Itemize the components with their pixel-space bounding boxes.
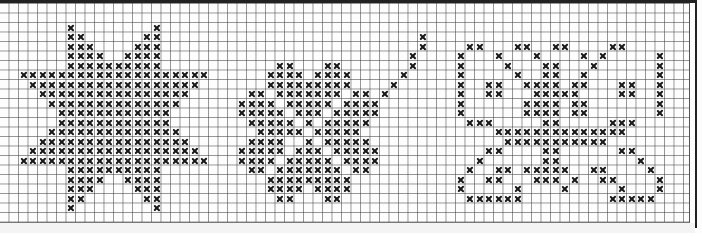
cross-stitch-icon xyxy=(266,127,276,137)
cross-stitch-icon xyxy=(617,42,627,52)
cross-stitch-icon xyxy=(323,165,333,175)
cross-stitch-icon xyxy=(655,70,665,80)
cross-stitch-icon xyxy=(332,137,342,147)
cross-stitch-icon xyxy=(85,184,95,194)
cross-stitch-icon xyxy=(133,80,143,90)
cross-stitch-icon xyxy=(142,108,152,118)
cross-stitch-icon xyxy=(513,42,523,52)
cross-stitch-icon xyxy=(304,175,314,185)
cross-stitch-icon xyxy=(351,99,361,109)
cross-stitch-icon xyxy=(133,146,143,156)
cross-stitch-icon xyxy=(304,108,314,118)
cross-stitch-icon xyxy=(38,146,48,156)
cross-stitch-icon xyxy=(503,61,513,71)
cross-stitch-icon xyxy=(114,127,124,137)
cross-stitch-icon xyxy=(579,108,589,118)
cross-stitch-icon xyxy=(180,80,190,90)
cross-stitch-icon xyxy=(484,146,494,156)
cross-stitch-icon xyxy=(294,108,304,118)
cross-stitch-icon xyxy=(456,89,466,99)
cross-stitch-icon xyxy=(247,118,257,128)
cross-stitch-icon xyxy=(95,165,105,175)
cross-stitch-icon xyxy=(513,127,523,137)
cross-stitch-icon xyxy=(133,184,143,194)
cross-stitch-icon xyxy=(237,108,247,118)
cross-stitch-icon xyxy=(342,118,352,128)
cross-stitch-icon xyxy=(133,137,143,147)
cross-stitch-icon xyxy=(76,146,86,156)
cross-stitch-icon xyxy=(85,61,95,71)
cross-stitch-icon xyxy=(285,127,295,137)
cross-stitch-icon xyxy=(256,89,266,99)
cross-stitch-icon xyxy=(266,99,276,109)
cross-stitch-icon xyxy=(332,80,342,90)
cross-stitch-icon xyxy=(19,70,29,80)
cross-stitch-icon xyxy=(123,146,133,156)
cross-stitch-icon xyxy=(142,89,152,99)
cross-stitch-icon xyxy=(532,175,542,185)
cross-stitch-icon xyxy=(66,127,76,137)
cross-stitch-icon xyxy=(484,118,494,128)
cross-stitch-icon xyxy=(285,156,295,166)
cross-stitch-icon xyxy=(541,108,551,118)
cross-stitch-icon xyxy=(247,146,257,156)
cross-stitch-icon xyxy=(475,156,485,166)
cross-stitch-icon xyxy=(161,80,171,90)
cross-stitch-icon xyxy=(541,61,551,71)
cross-stitch-icon xyxy=(342,127,352,137)
cross-stitch-icon xyxy=(560,127,570,137)
cross-stitch-icon xyxy=(256,108,266,118)
cross-stitch-icon xyxy=(351,118,361,128)
cross-stitch-icon xyxy=(76,70,86,80)
cross-stitch-icon xyxy=(313,184,323,194)
cross-stitch-icon xyxy=(66,203,76,213)
cross-stitch-icon xyxy=(275,80,285,90)
cross-stitch-icon xyxy=(95,99,105,109)
cross-stitch-icon xyxy=(332,118,342,128)
cross-stitch-icon xyxy=(551,80,561,90)
cross-stitch-icon xyxy=(76,51,86,61)
cross-stitch-icon xyxy=(142,184,152,194)
cross-stitch-icon xyxy=(589,127,599,137)
cross-stitch-icon xyxy=(247,156,257,166)
cross-stitch-icon xyxy=(627,89,637,99)
cross-stitch-icon xyxy=(541,118,551,128)
cross-stitch-icon xyxy=(408,61,418,71)
cross-stitch-icon xyxy=(389,80,399,90)
cross-stitch-icon xyxy=(332,89,342,99)
cross-stitch-icon xyxy=(646,165,656,175)
cross-stitch-icon xyxy=(123,165,133,175)
cross-stitch-icon xyxy=(655,99,665,109)
cross-stitch-icon xyxy=(475,194,485,204)
cross-stitch-icon xyxy=(285,194,295,204)
cross-stitch-icon xyxy=(532,127,542,137)
cross-stitch-icon xyxy=(152,42,162,52)
cross-stitch-icon xyxy=(294,127,304,137)
cross-stitch-icon xyxy=(152,194,162,204)
cross-stitch-icon xyxy=(541,89,551,99)
cross-stitch-icon xyxy=(294,70,304,80)
cross-stitch-icon xyxy=(114,137,124,147)
cross-stitch-icon xyxy=(171,70,181,80)
cross-stitch-icon xyxy=(551,89,561,99)
cross-stitch-icon xyxy=(503,127,513,137)
cross-stitch-icon xyxy=(266,108,276,118)
cross-stitch-icon xyxy=(655,80,665,90)
cross-stitch-icon xyxy=(85,175,95,185)
cross-stitch-icon xyxy=(38,80,48,90)
cross-stitch-icon xyxy=(190,156,200,166)
cross-stitch-icon xyxy=(627,80,637,90)
cross-stitch-icon xyxy=(123,156,133,166)
cross-stitch-icon xyxy=(237,146,247,156)
cross-stitch-icon xyxy=(275,108,285,118)
cross-stitch-icon xyxy=(133,127,143,137)
cross-stitch-icon xyxy=(152,203,162,213)
cross-stitch-icon xyxy=(104,80,114,90)
cross-stitch-icon xyxy=(85,80,95,90)
cross-stitch-icon xyxy=(323,80,333,90)
cross-stitch-icon xyxy=(171,89,181,99)
cross-stitch-icon xyxy=(190,70,200,80)
cross-stitch-icon xyxy=(294,156,304,166)
cross-stitch-icon xyxy=(47,127,57,137)
cross-stitch-icon xyxy=(313,80,323,90)
